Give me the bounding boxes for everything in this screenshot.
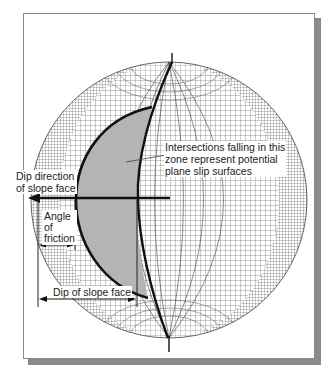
- label-line: of slope face: [16, 182, 76, 194]
- label-line: friction: [44, 233, 75, 244]
- dip-of-slope-face-label: Dip of slope face: [52, 286, 132, 298]
- label-line: Intersections falling in this: [165, 141, 285, 153]
- equal-area-grid: [30, 24, 310, 376]
- label-line: zone represent potential: [165, 153, 285, 165]
- dip-direction-label: Dip direction of slope face: [15, 170, 77, 194]
- dip-slope-arrowhead-left: [39, 296, 47, 302]
- angle-of-friction-label: Angle of friction: [42, 210, 77, 245]
- label-line: plane slip surfaces: [165, 165, 285, 177]
- intersections-zone-label: Intersections falling in this zone repre…: [164, 141, 286, 177]
- label-line: Dip direction: [16, 170, 76, 182]
